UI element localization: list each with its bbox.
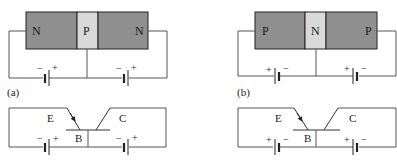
battery-icon: − + — [116, 62, 137, 86]
npn-collector-label: N — [135, 24, 144, 38]
battery-pos-sign: + — [344, 63, 350, 74]
battery-neg-sign: − — [361, 63, 367, 74]
battery-neg-sign: − — [37, 133, 43, 144]
pnp-collector-label: P — [365, 24, 372, 38]
battery-icon: + − — [266, 134, 289, 155]
battery-pos-sign: + — [266, 134, 272, 145]
battery-pos-sign: + — [344, 134, 350, 145]
base-label: B — [304, 132, 311, 144]
npn-base-label: P — [83, 24, 90, 38]
battery-pos-sign: + — [132, 132, 138, 143]
collector-lead — [324, 108, 338, 130]
caption-b: (b) — [237, 86, 250, 99]
npn-emitter-label: N — [32, 24, 41, 38]
battery-neg-sign: − — [361, 134, 367, 145]
battery-pos-sign: + — [53, 133, 59, 144]
battery-neg-sign: − — [37, 63, 43, 74]
panel-b-structure: P N P + − + − — [238, 12, 396, 84]
panel-a-symbol: E B C − + − + — [9, 108, 166, 155]
battery-icon: + − — [344, 63, 367, 84]
collector-label: C — [349, 112, 356, 124]
pnp-base-label: N — [311, 24, 320, 38]
battery-neg-sign: − — [116, 133, 122, 144]
caption-a: (a) — [7, 86, 20, 99]
battery-pos-sign: + — [52, 62, 58, 73]
battery-icon: + − — [344, 134, 367, 155]
battery-pos-sign: + — [131, 62, 137, 73]
battery-neg-sign: − — [283, 134, 289, 145]
emitter-arrow-icon — [70, 113, 75, 121]
panel-a-structure: N P N − + − + — [9, 12, 167, 86]
battery-icon: − + — [116, 132, 138, 155]
battery-neg-sign: − — [283, 63, 289, 74]
collector-lead — [96, 108, 110, 130]
panel-b-symbol: E B C + − + − — [238, 108, 396, 155]
battery-icon: + − — [266, 63, 289, 84]
emitter-label: E — [275, 112, 282, 124]
battery-icon: − + — [37, 133, 59, 155]
battery-pos-sign: + — [266, 64, 272, 75]
collector-label: C — [119, 112, 126, 124]
emitter-arrow-icon — [297, 113, 302, 121]
battery-icon: − + — [37, 62, 58, 86]
pnp-emitter-label: P — [262, 24, 269, 38]
battery-neg-sign: − — [116, 63, 122, 74]
base-label: B — [75, 132, 82, 144]
emitter-label: E — [47, 112, 54, 124]
transistor-diagram: N P N − + − + (a) E B — [0, 0, 397, 166]
